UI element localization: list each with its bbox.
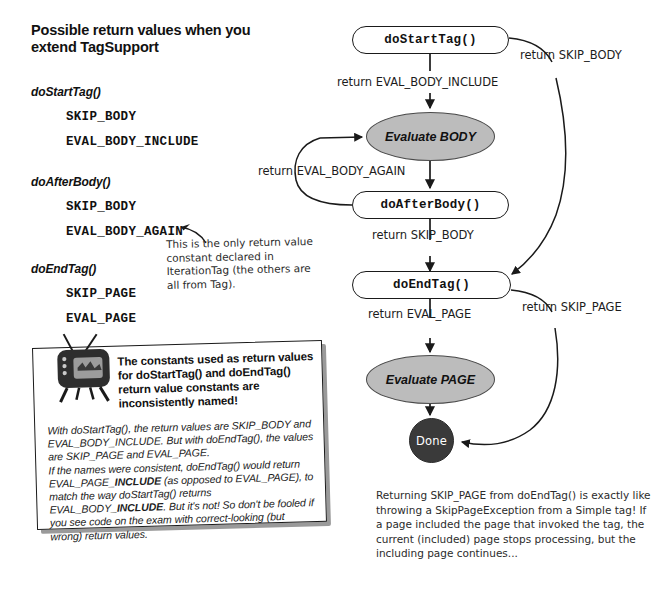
edge-label-skip-body-start: return SKIP_BODY: [520, 48, 622, 62]
callout-paragraph-1: With doStartTag(), the return values are…: [47, 417, 313, 463]
callout-paragraph-2-text: If the names were consistent, doEndTag()…: [48, 457, 314, 542]
flow-node-dostarttag[interactable]: doStartTag(): [352, 26, 509, 54]
method-label-doafterbody: doAfterBody(): [31, 175, 110, 189]
page-title: Possible return values when you extend T…: [31, 22, 281, 55]
edge-label-eval-body-again: return EVAL_BODY_AGAIN: [258, 164, 405, 178]
method-label-dostarttag: doStartTag(): [31, 85, 101, 99]
method-label-doendtag: doEndTag(): [31, 262, 96, 276]
edge-label-skip-page: return SKIP_PAGE: [522, 300, 622, 314]
watch-it-callout: The constants used as return values for …: [32, 340, 327, 530]
figure-page: Possible return values when you extend T…: [0, 0, 662, 597]
annotation-iteration-tag-note: This is the only return value constant d…: [166, 235, 317, 292]
callout-body: With doStartTag(), the return values are…: [47, 417, 318, 543]
flow-node-done[interactable]: Done: [409, 418, 454, 463]
edge-label-eval-body-include: return EVAL_BODY_INCLUDE: [337, 75, 498, 89]
flow-node-doendtag[interactable]: doEndTag(): [352, 271, 511, 299]
edge-label-skip-body-after: return SKIP_BODY: [372, 228, 474, 242]
callout-title: The constants used as return values for …: [117, 349, 314, 410]
constant-skip-body-1: SKIP_BODY: [66, 110, 136, 124]
flow-node-doafterbody[interactable]: doAfterBody(): [352, 191, 509, 219]
tv-icon: [51, 328, 125, 408]
callout-paragraph-2: If the names were consistent, doEndTag()…: [48, 457, 314, 542]
flow-node-evaluate-page[interactable]: Evaluate PAGE: [366, 355, 495, 404]
constant-skip-page: SKIP_PAGE: [66, 287, 136, 301]
constant-skip-body-2: SKIP_BODY: [66, 200, 136, 214]
constant-eval-body-again: EVAL_BODY_AGAIN: [66, 225, 183, 239]
constant-eval-body-include: EVAL_BODY_INCLUDE: [66, 135, 199, 149]
constant-eval-page: EVAL_PAGE: [66, 312, 136, 326]
annotation-skip-page-note: Returning SKIP_PAGE from doEndTag() is e…: [376, 488, 654, 561]
edge-label-eval-page: return EVAL_PAGE: [368, 307, 471, 321]
flow-node-evaluate-body[interactable]: Evaluate BODY: [366, 112, 495, 161]
